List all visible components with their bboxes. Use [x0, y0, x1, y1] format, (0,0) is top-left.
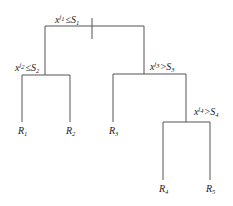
leaf-R3: R3 — [108, 125, 119, 137]
split-2-label: xj2≤S2 — [14, 61, 40, 74]
split-3-label: xj3>S3 — [149, 60, 175, 73]
decision-tree: xj1≤S1 xj2≤S2 xj3>S3 xj4>S4 R1 R2 R3 R4 … — [0, 0, 233, 206]
leaf-R5: R5 — [205, 183, 216, 195]
split-1-label: xj1≤S1 — [54, 13, 79, 26]
split-4-label: xj4>S4 — [193, 105, 219, 118]
leaf-R2: R2 — [65, 125, 76, 137]
leaf-R4: R4 — [158, 183, 169, 195]
leaf-R1: R1 — [17, 125, 27, 137]
